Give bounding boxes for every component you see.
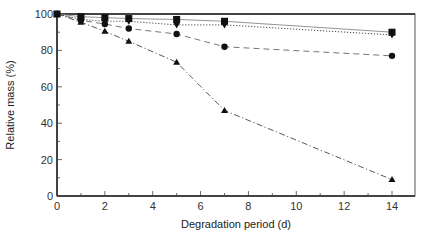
triangle-up-marker bbox=[101, 28, 108, 34]
triangle-down-marker bbox=[173, 22, 180, 28]
circle-marker bbox=[221, 44, 227, 50]
circle-marker bbox=[126, 25, 132, 31]
y-tick-label: 100 bbox=[35, 8, 53, 20]
square-marker bbox=[173, 16, 180, 23]
x-tick-label: 2 bbox=[102, 200, 108, 212]
x-tick-label: 0 bbox=[54, 200, 60, 212]
triangle-down-marker bbox=[221, 22, 228, 28]
y-tick-label: 20 bbox=[41, 154, 53, 166]
plot-area: 02468101214020406080100 bbox=[35, 8, 415, 212]
triangle-up-marker bbox=[125, 38, 132, 44]
x-tick-label: 6 bbox=[198, 200, 204, 212]
y-tick-label: 80 bbox=[41, 44, 53, 56]
triangle-up-marker bbox=[389, 176, 396, 182]
circle-marker bbox=[173, 31, 179, 37]
triangle-up-marker bbox=[173, 59, 180, 65]
series-line-triangle bbox=[57, 14, 392, 180]
plot-frame bbox=[57, 14, 415, 196]
x-tick-label: 14 bbox=[386, 200, 398, 212]
circle-marker bbox=[102, 21, 108, 27]
circle-marker bbox=[389, 53, 395, 59]
x-tick-label: 12 bbox=[338, 200, 350, 212]
x-axis-title: Degradation period (d) bbox=[181, 218, 291, 230]
y-tick-label: 60 bbox=[41, 81, 53, 93]
x-tick-label: 10 bbox=[290, 200, 302, 212]
y-tick-label: 0 bbox=[47, 190, 53, 202]
triangle-up-marker bbox=[221, 107, 228, 113]
y-tick-label: 40 bbox=[41, 117, 53, 129]
x-tick-label: 8 bbox=[245, 200, 251, 212]
y-axis-title: Relative mass (%) bbox=[4, 60, 16, 149]
chart: 02468101214020406080100 Degradation peri… bbox=[0, 0, 423, 240]
x-tick-label: 4 bbox=[150, 200, 156, 212]
